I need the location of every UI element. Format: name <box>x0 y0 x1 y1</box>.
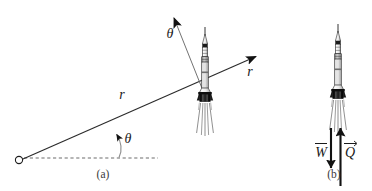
label-theta-axis: θ <box>167 26 174 41</box>
figure-canvas: r r θ θ (a) W <box>0 0 372 191</box>
caption-panel-a: (a) <box>97 168 110 181</box>
rocket-exhaust-panel-b <box>330 100 347 134</box>
label-r-axis: r <box>247 64 253 79</box>
label-theta-angle: θ <box>125 131 132 146</box>
label-thrust-symbol: Q <box>345 145 355 160</box>
label-weight-symbol: W <box>315 145 328 160</box>
origin-point <box>15 156 22 163</box>
label-r-length: r <box>119 87 125 102</box>
rocket-exhaust-panel-a <box>197 103 214 137</box>
panel-a-group: r r θ θ (a) <box>15 18 256 181</box>
panel-b-group: W Q (b) <box>315 24 357 186</box>
label-weight-vector: W <box>315 144 328 161</box>
physics-figure: r r θ θ (a) W <box>0 0 372 191</box>
theta-unit-vector-arrow <box>174 18 204 92</box>
rocket-panel-a <box>197 27 213 102</box>
caption-panel-b: (b) <box>327 168 341 181</box>
rocket-panel-b <box>330 24 346 99</box>
theta-angle-arc <box>117 134 121 157</box>
radial-r-line <box>22 57 256 160</box>
label-thrust-vector: Q <box>344 141 357 160</box>
